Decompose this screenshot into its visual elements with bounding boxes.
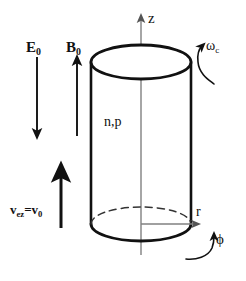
electric-field-subscript: 0 <box>36 46 41 57</box>
curved-arrow-icon <box>186 236 214 259</box>
velocity-subscript-2: 0 <box>38 209 42 219</box>
phi-axis-label-text: ϕ <box>216 231 224 247</box>
z-axis-label-text: z <box>148 10 155 26</box>
drift-velocity-label: vez=v0 <box>10 203 42 218</box>
electric-field-symbol: E <box>26 39 36 55</box>
phi-rotation-arrow <box>186 236 214 259</box>
cylinder-top-rim <box>91 45 191 79</box>
carrier-density-text: n,p <box>104 114 122 129</box>
z-axis-label: z <box>148 11 155 26</box>
cyclotron-frequency-symbol: ω <box>206 38 215 53</box>
physics-diagram-figure: z E0 B0 ωc n,p vez=v0 r ϕ <box>0 0 246 281</box>
electric-field-label: E0 <box>26 40 41 57</box>
velocity-subscript: ez <box>17 209 25 219</box>
magnetic-field-symbol: B <box>66 39 76 55</box>
r-axis-label-text: r <box>196 204 201 219</box>
magnetic-field-label: B0 <box>66 40 81 57</box>
magnetic-field-subscript: 0 <box>76 46 81 57</box>
velocity-equals: = <box>24 202 31 217</box>
cyclotron-frequency-subscript: c <box>215 45 219 55</box>
r-axis-label: r <box>196 205 201 219</box>
carrier-density-label: n,p <box>104 115 122 129</box>
phi-axis-label: ϕ <box>216 232 224 247</box>
cyclotron-frequency-label: ωc <box>206 39 219 55</box>
